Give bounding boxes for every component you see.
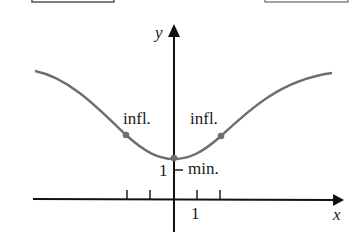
minimum-label: min. — [188, 160, 219, 177]
top-left-box — [32, 0, 114, 2]
x-axis — [33, 199, 336, 200]
y-tick-label: 1 — [159, 162, 168, 179]
function-curve — [35, 71, 332, 159]
right-inflection-label: infl. — [190, 110, 218, 127]
graph-canvas — [0, 0, 353, 243]
y-axis-arrow-icon — [168, 24, 180, 37]
top-right-box — [265, 0, 348, 2]
right-inflection-point — [218, 133, 225, 140]
x-tick-label: 1 — [191, 205, 200, 222]
y-axis-label: y — [155, 24, 163, 41]
x-axis-label: x — [333, 206, 341, 223]
left-inflection-point — [123, 132, 130, 139]
left-inflection-label: infl. — [123, 110, 151, 127]
minimum-point — [171, 155, 178, 162]
